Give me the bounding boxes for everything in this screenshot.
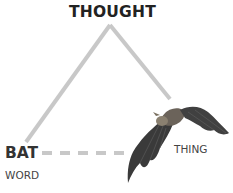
bat-right-wing [180, 107, 229, 135]
edge-word-thought [26, 25, 110, 142]
thought-label: THOUGHT [69, 3, 156, 21]
symbol-label: BAT [5, 144, 38, 162]
triangle-diagram [0, 0, 233, 193]
bat-head [156, 116, 168, 126]
thing-label: THING [174, 143, 207, 155]
bat-ear [153, 112, 160, 116]
word-caption: WORD [5, 169, 39, 181]
bat-left-wing [128, 122, 173, 183]
edge-thought-thing [110, 25, 170, 99]
